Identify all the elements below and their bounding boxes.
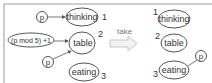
token-label: (p mod 5) +1 [11, 37, 51, 45]
place-index: 1 [102, 12, 107, 22]
petri-net-diagram: thinking 1 p table 2 (p mod 5) +1 p [0, 0, 212, 83]
place-label: thinking [158, 14, 189, 24]
after-state: thinking 1 table 2 eating 3 p [153, 7, 207, 79]
place-thinking-after: thinking 1 [153, 7, 190, 28]
place-label: eating [162, 65, 187, 75]
transition-label: take [117, 27, 133, 36]
place-label: table [164, 38, 184, 48]
place-eating-after: eating 3 [153, 61, 189, 79]
place-table-before: table 2 [69, 29, 103, 54]
before-state: thinking 1 p table 2 (p mod 5) +1 p [8, 8, 107, 81]
place-label: eating [72, 67, 97, 77]
place-index: 1 [153, 7, 158, 17]
place-table-after: table 2 [155, 31, 187, 52]
place-thinking-before: thinking 1 [66, 8, 107, 26]
arc-arrow [53, 51, 71, 59]
place-eating-before: eating 3 [69, 63, 106, 81]
token-p-thinking: p [37, 12, 66, 23]
place-label: table [73, 38, 93, 48]
place-index: 2 [98, 29, 103, 39]
token-pmod5-table: (p mod 5) +1 [8, 33, 68, 47]
place-index: 2 [155, 31, 160, 41]
place-label: thinking [66, 12, 97, 22]
token-label: p [199, 52, 204, 61]
token-label: p [46, 58, 51, 67]
place-index: 3 [153, 69, 158, 79]
token-p-eating: p [188, 51, 207, 67]
place-index: 3 [101, 71, 106, 81]
token-link [188, 60, 197, 66]
transition-arrow-icon [110, 36, 137, 51]
transition-take: take [110, 27, 137, 51]
token-label: p [40, 13, 45, 22]
token-p-table: p [43, 51, 72, 68]
